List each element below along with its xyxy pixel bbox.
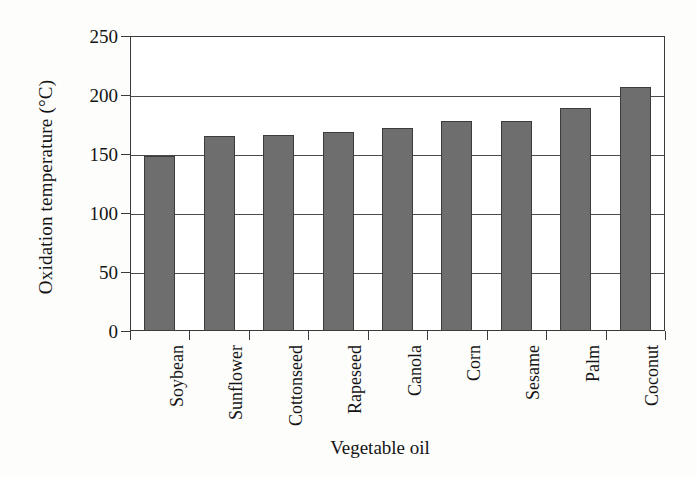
bar-canola <box>382 128 413 331</box>
bar-corn <box>441 121 472 331</box>
x-tick-mark <box>249 331 250 340</box>
x-axis-title: Vegetable oil <box>0 437 697 459</box>
x-tick-label: Sunflower <box>226 345 247 420</box>
y-tick-mark <box>121 95 130 96</box>
y-tick-label: 150 <box>62 145 118 164</box>
x-tick-mark <box>189 331 190 340</box>
bar-sesame <box>501 121 532 331</box>
y-tick-label: 250 <box>62 27 118 46</box>
y-axis-title: Oxidation temperature (°C) <box>35 37 57 337</box>
x-tick-mark <box>606 331 607 340</box>
x-tick-mark <box>368 331 369 340</box>
x-tick-label: Rapeseed <box>345 345 366 414</box>
x-tick-mark <box>308 331 309 340</box>
y-tick-mark <box>121 331 130 332</box>
x-tick-mark <box>427 331 428 340</box>
x-tick-mark <box>546 331 547 340</box>
x-tick-label: Corn <box>464 345 485 381</box>
x-tick-mark <box>487 331 488 340</box>
y-axis-tick-labels: 050100150200250 <box>62 0 118 477</box>
y-tick-label: 50 <box>62 263 118 282</box>
y-tick-mark <box>121 213 130 214</box>
y-tick-mark <box>121 154 130 155</box>
x-tick-label: Palm <box>583 345 604 382</box>
y-tick-label: 0 <box>62 322 118 341</box>
chart-figure: Oxidation temperature (°C) 0501001502002… <box>0 0 697 477</box>
x-tick-label: Cottonseed <box>286 345 307 426</box>
bar-coconut <box>620 87 651 331</box>
bar-sunflower <box>204 136 235 331</box>
y-tick-mark <box>121 36 130 37</box>
y-tick-label: 100 <box>62 204 118 223</box>
x-tick-label: Canola <box>405 345 426 396</box>
x-tick-label: Soybean <box>167 345 188 407</box>
x-tick-label: Coconut <box>642 345 663 406</box>
bar-rapeseed <box>323 132 354 331</box>
x-tick-label: Sesame <box>523 345 544 400</box>
y-tick-mark <box>121 272 130 273</box>
x-tick-mark <box>665 331 666 340</box>
bars-layer <box>130 36 665 331</box>
x-tick-mark <box>130 331 131 340</box>
bar-soybean <box>144 156 175 331</box>
y-tick-label: 200 <box>62 86 118 105</box>
bar-palm <box>560 108 591 331</box>
bar-cottonseed <box>263 135 294 331</box>
